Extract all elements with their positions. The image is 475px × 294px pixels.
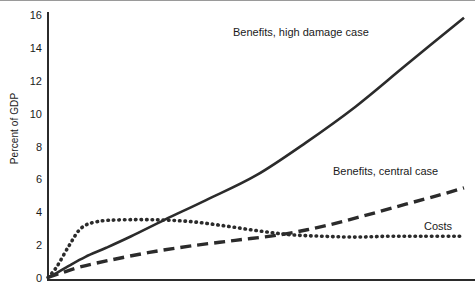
- series-label-benefits-high-damage: Benefits, high damage case: [233, 27, 369, 38]
- series-line-2: [48, 220, 464, 278]
- series-line-1: [48, 188, 464, 278]
- chart-figure: Percent of GDP 0246810121416 Benefits, h…: [0, 0, 475, 294]
- plot-area: [0, 0, 475, 294]
- series-label-costs: Costs: [424, 221, 452, 232]
- series-label-benefits-central: Benefits, central case: [333, 166, 438, 177]
